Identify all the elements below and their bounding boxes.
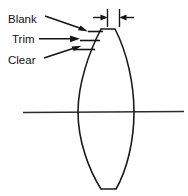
clear-leader-arrowhead [72,46,82,51]
blank-leader-arrowhead [78,25,88,31]
clear-label: Clear [8,54,36,66]
dimension-arrowhead-left [101,15,108,21]
lens-outline [78,29,134,189]
lens-diagram-svg: Blank Trim Clear [0,0,188,196]
clear-leader-line [44,48,76,59]
trim-leader-arrowhead [70,35,80,42]
blank-leader-line [45,16,84,30]
lens-diagram-figure: Blank Trim Clear [0,0,188,196]
optical-axis-line [23,112,184,113]
dimension-arrowhead-right [120,15,127,21]
trim-label: Trim [12,33,35,45]
blank-label: Blank [8,13,37,25]
